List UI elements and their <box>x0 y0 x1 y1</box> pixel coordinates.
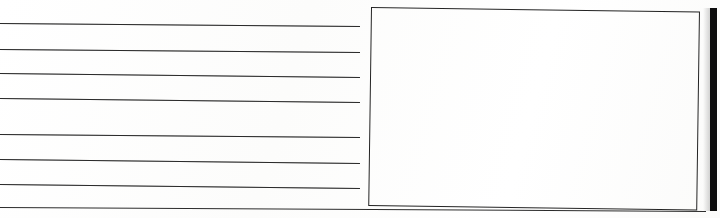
scanned-page <box>0 0 720 218</box>
writing-line <box>0 159 360 164</box>
answer-box[interactable] <box>368 7 700 211</box>
writing-line <box>0 98 360 103</box>
page-edge-bar <box>710 8 717 211</box>
writing-line <box>0 134 360 138</box>
writing-line <box>0 184 360 189</box>
writing-line <box>0 49 360 53</box>
writing-line <box>0 73 360 78</box>
writing-line <box>0 23 360 27</box>
